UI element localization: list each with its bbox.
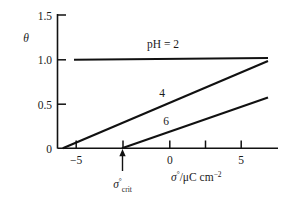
x-tick-label-0: 0 <box>167 154 173 166</box>
y-tick-label-1.5: 1.5 <box>38 10 53 22</box>
x-axis-title-unit: /μC cm <box>180 171 214 184</box>
y-tick-label-0.5: 0.5 <box>38 99 53 111</box>
chart-figure: 1.5 1.0 0.5 0 −5 0 5 θ pH = 2 4 6 σ°crit… <box>0 0 288 199</box>
series-label-ph4: 4 <box>159 87 165 99</box>
chart-svg: 1.5 1.0 0.5 0 −5 0 5 θ pH = 2 4 6 σ°crit… <box>0 0 288 199</box>
y-tick-label-0: 0 <box>46 143 52 155</box>
x-axis-title-exponent: −2 <box>214 170 222 179</box>
series-label-ph2: pH = 2 <box>147 38 179 51</box>
y-axis-title: θ <box>23 32 29 44</box>
sigma-crit-subscript: crit <box>122 185 133 194</box>
y-tick-label-1.0: 1.0 <box>38 54 53 66</box>
x-tick-label--5: −5 <box>70 154 82 166</box>
x-tick-label-5: 5 <box>238 154 244 166</box>
series-label-ph6: 6 <box>163 115 169 127</box>
